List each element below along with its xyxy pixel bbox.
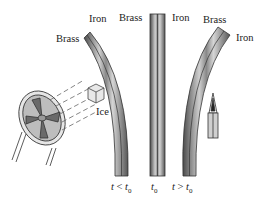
hot-strip — [183, 27, 230, 176]
hot-brass-label: Brass — [203, 15, 226, 26]
ref-iron-label: Iron — [172, 13, 190, 24]
fan-icon — [10, 83, 74, 166]
bimetallic-diagram — [0, 0, 266, 200]
flame-candle-icon — [208, 93, 218, 138]
ref-brass-label: Brass — [119, 13, 142, 24]
cold-strip — [84, 32, 128, 176]
cold-brass-label: Brass — [56, 34, 79, 45]
ref-caption: t0 — [151, 182, 157, 195]
cold-iron-label: Iron — [89, 14, 107, 25]
reference-strip — [150, 14, 165, 176]
hot-iron-label: Iron — [236, 33, 254, 44]
ice-label: Ice — [96, 107, 109, 118]
ice-cube-icon — [88, 84, 104, 103]
cold-caption: t < t0 — [111, 182, 132, 195]
hot-caption: t > t0 — [172, 182, 193, 195]
